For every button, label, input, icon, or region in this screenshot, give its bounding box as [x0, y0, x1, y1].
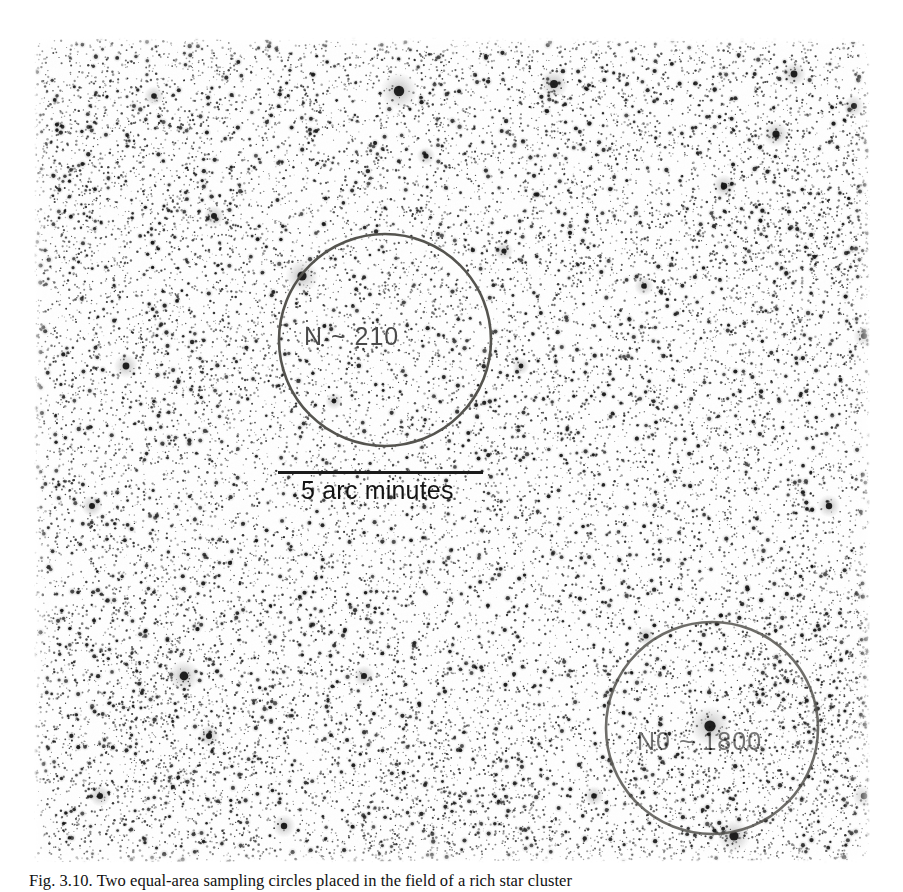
- astronomical-plate: [34, 36, 870, 864]
- star-field-image: [34, 36, 870, 864]
- figure-caption: Fig. 3.10. Two equal-area sampling circl…: [29, 871, 889, 891]
- figure-page: N ~ 210 N0 ~ 1800 5 arc minutes Fig. 3.1…: [0, 0, 903, 892]
- scale-bar-rule: [278, 471, 483, 474]
